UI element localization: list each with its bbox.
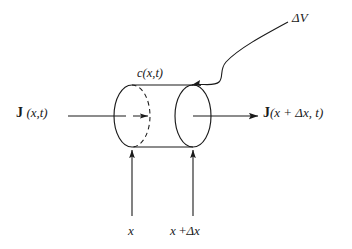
diagram-canvas <box>0 0 352 249</box>
flux-in-symbol: J <box>16 105 23 120</box>
flux-in-label: J (x,t) <box>16 106 48 120</box>
control-volume-label: ΔV <box>292 11 308 24</box>
diffusion-control-volume-diagram: J (x,t) J(x + Δx, t) c(x,t) ΔV x x +Δx <box>0 0 352 249</box>
flux-out-label: J(x + Δx, t) <box>263 106 323 120</box>
x-right-label: x +Δx <box>170 224 200 237</box>
x-right-delta-term: Δx <box>186 223 199 238</box>
flux-out-argument: (x + Δx, t) <box>270 105 323 120</box>
concentration-label: c(x,t) <box>137 67 163 80</box>
x-right-plus-operator: + <box>176 223 187 238</box>
flux-in-argument: (x,t) <box>26 105 47 120</box>
flux-out-symbol: J <box>263 105 270 120</box>
volume-leader-curve <box>192 22 288 85</box>
x-left-label: x <box>128 224 134 237</box>
